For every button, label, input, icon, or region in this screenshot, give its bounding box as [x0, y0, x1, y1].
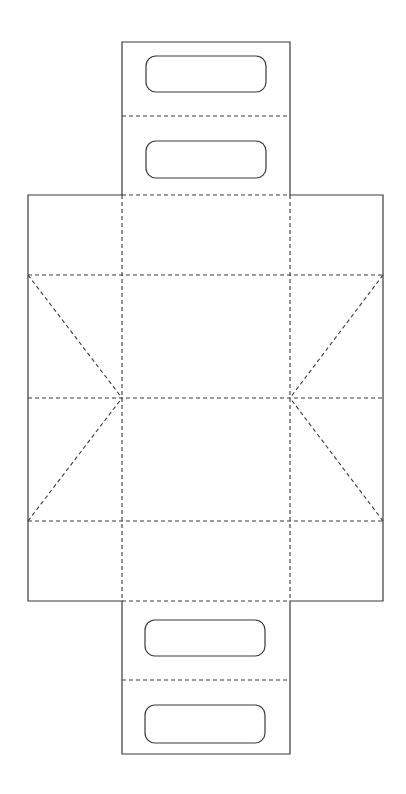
gusset-fold-right-bottom — [290, 398, 383, 521]
handle-cutout-4 — [145, 705, 265, 743]
handle-cutout-2 — [146, 141, 266, 178]
gusset-fold-left-top — [28, 275, 122, 398]
handle-cutout-1 — [146, 56, 266, 92]
gusset-fold-left-bottom — [28, 398, 122, 521]
handle-cutout-3 — [145, 620, 265, 656]
gusset-fold-right-top — [290, 275, 383, 398]
box-dieline-diagram — [0, 0, 406, 794]
